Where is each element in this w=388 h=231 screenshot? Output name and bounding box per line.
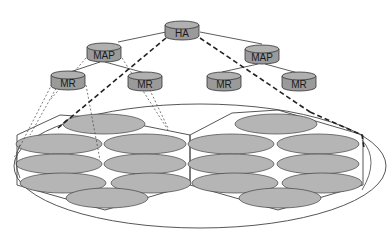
coverage-cell: [66, 188, 148, 208]
node-mr-2-label: MR: [137, 79, 153, 90]
coverage-cell: [63, 114, 145, 134]
node-mr-4[interactable]: MR: [282, 72, 316, 91]
right-cell-group: [188, 114, 362, 208]
left-cell-group: [16, 114, 191, 208]
node-ha[interactable]: HA: [165, 21, 199, 40]
coverage-cell: [104, 154, 186, 174]
node-ha-label: HA: [175, 28, 189, 39]
coverage-cell: [239, 188, 321, 208]
edge-map-left-mr1: [70, 62, 100, 72]
node-mr-2[interactable]: MR: [128, 72, 162, 91]
coverage-cell: [16, 134, 102, 154]
node-mr-4-label: MR: [291, 79, 307, 90]
edge-ha-map-right: [200, 32, 262, 44]
node-map-right[interactable]: MAP: [245, 45, 279, 64]
coverage-cell: [188, 154, 274, 174]
node-mr-3[interactable]: MR: [207, 72, 241, 91]
coverage-cell: [16, 154, 102, 174]
edge-map-right-mr4: [265, 64, 298, 73]
coverage-cell: [277, 154, 359, 174]
node-mr-3-label: MR: [216, 79, 232, 90]
network-hierarchy-diagram: HA MAP MAP MR MR MR MR: [0, 0, 388, 231]
coverage-cell: [277, 134, 359, 154]
node-mr-1-label: MR: [60, 78, 76, 89]
edge-mr2-cell: [148, 86, 168, 128]
node-mr-1[interactable]: MR: [51, 71, 85, 90]
node-map-left-label: MAP: [93, 50, 115, 61]
edge-ha-map-left: [118, 32, 166, 42]
node-map-left[interactable]: MAP: [87, 43, 121, 62]
coverage-cell: [235, 114, 317, 134]
coverage-cell: [188, 134, 274, 154]
node-map-right-label: MAP: [251, 52, 273, 63]
coverage-cell: [104, 134, 186, 154]
